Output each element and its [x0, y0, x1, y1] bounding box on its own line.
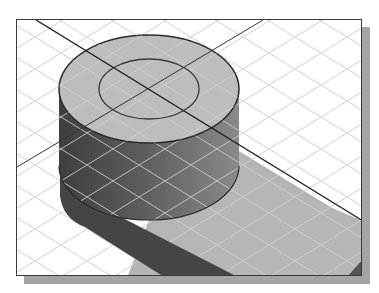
isometric-scene	[16, 19, 362, 276]
cad-viewport[interactable]	[16, 19, 362, 276]
